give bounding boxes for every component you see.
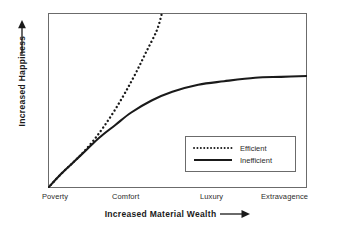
arrow-right-icon (220, 209, 250, 219)
series-efficient (48, 13, 162, 188)
x-tick-label-comfort: Comfort (112, 192, 139, 201)
chart-figure: Increased Happiness Poverty Comfort Luxu… (0, 0, 344, 235)
legend-item-inefficient: Inefficient (193, 156, 288, 165)
x-axis-title: Increased Material Wealth (105, 209, 217, 219)
x-tick-label-extravagence: Extravagence (261, 192, 308, 201)
legend-swatch-dotted (193, 144, 233, 152)
legend-label-efficient: Efficient (240, 144, 267, 153)
x-axis-title-group: Increased Material Wealth (48, 209, 307, 219)
legend-label-inefficient: Inefficient (240, 156, 272, 165)
y-axis-title: Increased Happiness (17, 15, 27, 147)
chart-legend: Efficient Inefficient (185, 136, 296, 172)
legend-item-efficient: Efficient (193, 144, 288, 153)
x-tick-label-luxury: Luxury (200, 192, 223, 201)
efficient-curve (48, 13, 162, 188)
y-axis-group: Increased Happiness (0, 16, 44, 188)
x-tick-label-poverty: Poverty (42, 192, 68, 201)
legend-swatch-solid (193, 156, 233, 164)
